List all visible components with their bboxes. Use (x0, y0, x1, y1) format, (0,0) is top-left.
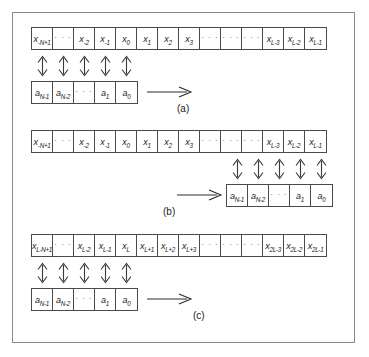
cell-label: xL-2 (284, 28, 304, 49)
cell-label: xL+3 (179, 235, 199, 256)
ellipsis-label: · · · (221, 28, 241, 49)
register-cell: a0 (311, 185, 332, 206)
register-cell: · · · (53, 28, 74, 49)
data-sample-row-b: x-N+1· · ·x-2x-1x0x1x2x3· · ·· · ·· · ·x… (31, 130, 327, 153)
ellipsis-label: · · · (200, 235, 220, 256)
ellipsis-label: · · · (200, 28, 220, 49)
cell-label: x1 (137, 131, 157, 152)
register-cell: · · · (74, 289, 95, 310)
panel-c: xL-N+1· · ·xL-2xL-1xLxL+1xL+2xL+3· · ·· … (13, 222, 354, 332)
cell-label: xL-3 (263, 28, 283, 49)
register-cell: a1 (290, 185, 311, 206)
register-cell: x2L-1 (305, 235, 326, 256)
cell-label: x-1 (95, 28, 115, 49)
cell-label: aN-1 (227, 185, 247, 206)
cell-label: xL-1 (305, 131, 326, 152)
register-cell: a1 (95, 289, 116, 310)
double-arrow-icon (32, 55, 53, 77)
cell-label: xL-1 (95, 235, 115, 256)
register-cell: aN-2 (53, 82, 74, 103)
register-cell: x0 (116, 28, 137, 49)
cell-label: xL+1 (137, 235, 157, 256)
ellipsis-label: · · · (53, 235, 73, 256)
register-cell: xL-1 (305, 28, 326, 49)
coefficient-row-b: aN-1aN-2· · ·a1a0 (226, 184, 333, 207)
panel-caption-b: (b) (163, 206, 175, 217)
register-cell: aN-1 (32, 289, 53, 310)
register-cell: aN-1 (32, 82, 53, 103)
register-cell: xL (116, 235, 137, 256)
register-cell: xL-3 (263, 28, 284, 49)
double-arrow-icon (227, 158, 248, 180)
slide-direction-arrow-c (146, 292, 194, 310)
register-cell: · · · (74, 82, 95, 103)
register-cell: · · · (221, 131, 242, 152)
bidirectional-link-arrows-b (227, 158, 332, 180)
ellipsis-label: · · · (242, 235, 262, 256)
register-cell: xL-1 (305, 131, 326, 152)
cell-label: aN-2 (248, 185, 268, 206)
double-arrow-icon (53, 55, 74, 77)
register-cell: a0 (116, 82, 137, 103)
cell-label: x2L-3 (263, 235, 283, 256)
ellipsis-label: · · · (269, 185, 289, 206)
ellipsis-label: · · · (53, 28, 73, 49)
register-cell: x-1 (95, 131, 116, 152)
coefficient-row-c: aN-1aN-2· · ·a1a0 (31, 288, 138, 311)
register-cell: a1 (95, 82, 116, 103)
register-cell: x1 (137, 28, 158, 49)
register-cell: xL-2 (284, 28, 305, 49)
coefficient-row-a: aN-1aN-2· · ·a1a0 (31, 81, 138, 104)
ellipsis-label: · · · (242, 131, 262, 152)
register-cell: x2L-3 (263, 235, 284, 256)
register-cell: x2L-2 (284, 235, 305, 256)
ellipsis-label: · · · (74, 82, 94, 103)
cell-label: a1 (95, 289, 115, 310)
register-cell: a0 (116, 289, 137, 310)
register-cell: x-N+1 (32, 131, 53, 152)
register-cell: · · · (242, 28, 263, 49)
register-cell: x2 (158, 28, 179, 49)
register-cell: xL-2 (284, 131, 305, 152)
register-cell: x3 (179, 28, 200, 49)
double-arrow-icon (248, 158, 269, 180)
cell-label: x3 (179, 28, 199, 49)
register-cell: · · · (269, 185, 290, 206)
cell-label: x0 (116, 28, 136, 49)
register-cell: · · · (53, 131, 74, 152)
register-cell: xL-3 (263, 131, 284, 152)
double-arrow-icon (32, 262, 53, 284)
cell-label: xL-1 (305, 28, 326, 49)
ellipsis-label: · · · (221, 131, 241, 152)
panel-a: x-N+1· · ·x-2x-1x0x1x2x3· · ·· · ·· · ·x… (13, 15, 354, 120)
cell-label: x-N+1 (32, 28, 52, 49)
cell-label: a1 (290, 185, 310, 206)
register-cell: x2 (158, 131, 179, 152)
double-arrow-icon (53, 262, 74, 284)
register-cell: xL+3 (179, 235, 200, 256)
bidirectional-link-arrows-c (32, 262, 137, 284)
cell-label: x2L-1 (305, 235, 326, 256)
register-cell: aN-2 (248, 185, 269, 206)
register-cell: xL+2 (158, 235, 179, 256)
register-cell: x0 (116, 131, 137, 152)
cell-label: a0 (116, 289, 137, 310)
panel-caption-c: (c) (193, 310, 205, 321)
cell-label: x-2 (74, 131, 94, 152)
ellipsis-label: · · · (242, 28, 262, 49)
register-cell: · · · (242, 235, 263, 256)
cell-label: x1 (137, 28, 157, 49)
cell-label: aN-2 (53, 82, 73, 103)
register-cell: x-1 (95, 28, 116, 49)
cell-label: a1 (95, 82, 115, 103)
cell-label: x0 (116, 131, 136, 152)
figure-frame: x-N+1· · ·x-2x-1x0x1x2x3· · ·· · ·· · ·x… (12, 12, 355, 343)
ellipsis-label: · · · (221, 235, 241, 256)
register-cell: x3 (179, 131, 200, 152)
register-cell: x1 (137, 131, 158, 152)
cell-label: xL-2 (74, 235, 94, 256)
ellipsis-label: · · · (53, 131, 73, 152)
register-cell: · · · (221, 235, 242, 256)
register-cell: xL+1 (137, 235, 158, 256)
data-sample-row-c: xL-N+1· · ·xL-2xL-1xLxL+1xL+2xL+3· · ·· … (31, 234, 327, 257)
